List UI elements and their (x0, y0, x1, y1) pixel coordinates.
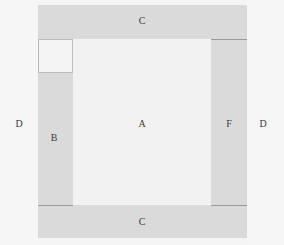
label-f: F (226, 119, 232, 129)
label-d-right: D (259, 119, 266, 129)
divider-f-c (211, 205, 247, 206)
divider-b-c (38, 205, 73, 206)
label-c-bottom: C (139, 217, 146, 227)
label-a: A (138, 119, 145, 129)
label-b: B (51, 133, 58, 143)
label-d-left: D (15, 119, 22, 129)
corner-box (38, 39, 73, 73)
label-c-top: C (139, 16, 146, 26)
